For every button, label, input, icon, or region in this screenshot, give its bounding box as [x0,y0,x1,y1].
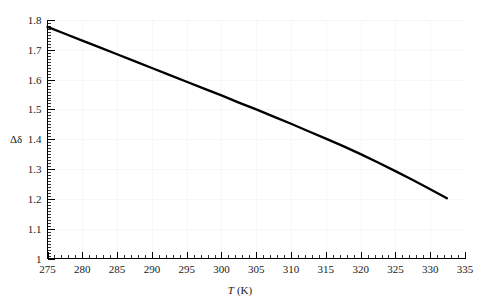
y-tick-label: 1.6 [28,74,42,86]
x-tick-label: 320 [352,263,369,275]
y-tick-label: 1.4 [28,133,42,145]
x-tick-label: 330 [422,263,439,275]
x-tick-label: 280 [74,263,91,275]
chart-background [0,0,482,307]
x-tick-label: 335 [457,263,474,275]
y-tick-label: 1 [36,253,42,265]
x-tick-label: 290 [144,263,161,275]
x-tick-label: 315 [318,263,335,275]
y-tick-label: 1.3 [28,163,42,175]
x-tick-label: 305 [248,263,265,275]
chart-figure: 275280285290295300305310315320325330335 … [0,0,482,307]
x-tick-label: 285 [109,263,126,275]
x-axis-title-unit: (K) [237,284,253,297]
x-tick-label: 275 [39,263,56,275]
y-tick-label: 1.5 [28,103,42,115]
x-axis-title-symbol: T [228,284,235,296]
x-tick-label: 310 [283,263,300,275]
y-tick-label: 1.2 [28,193,42,205]
y-tick-label: 1.7 [28,44,42,56]
y-tick-label: 1.8 [28,14,42,26]
y-tick-label: 1.1 [28,223,42,235]
y-axis-tick-labels: 11.11.21.31.41.51.61.71.8 [28,14,42,265]
x-tick-label: 295 [178,263,195,275]
chart-plot-svg: 275280285290295300305310315320325330335 … [0,0,482,307]
x-axis-title: T(K) [228,284,253,297]
x-tick-label: 325 [387,263,404,275]
x-tick-label: 300 [213,263,230,275]
y-axis-title: Δδ [10,133,22,145]
